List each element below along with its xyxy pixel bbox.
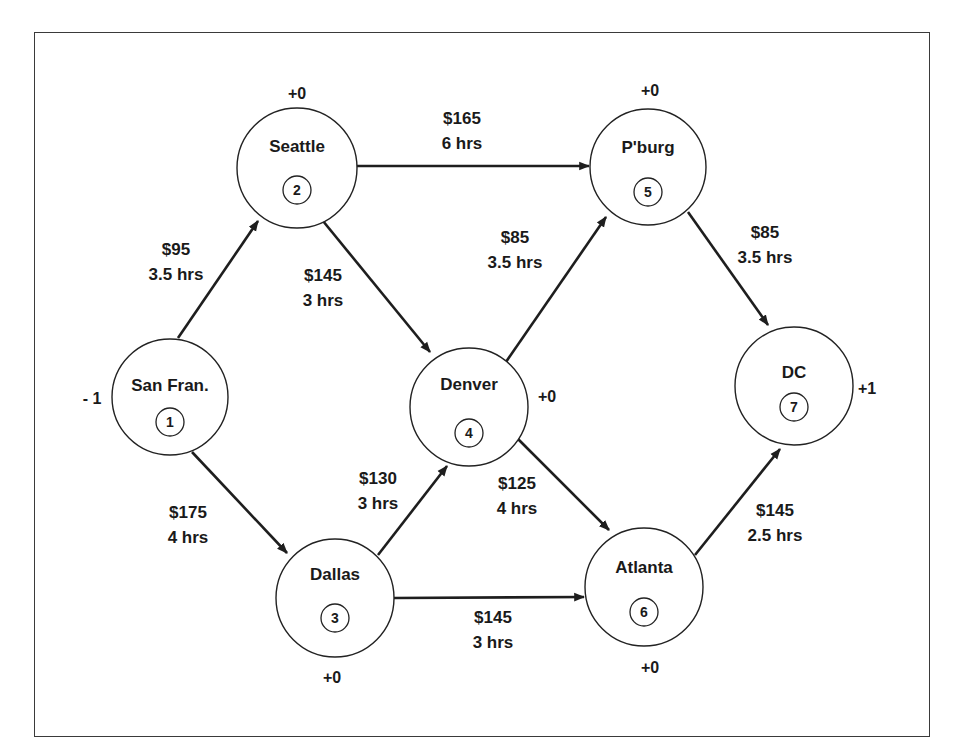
node-seattle: Seattle2+0 [237,85,357,228]
node-supply-label: +0 [641,82,659,99]
edge-time-label: 3 hrs [473,633,514,652]
node-supply-label: +0 [641,659,659,676]
edge-cost-label: $165 [443,109,481,128]
edge-1-to-2: $953.5 hrs [149,221,258,338]
node-p-burg: P'burg5+0 [590,82,706,225]
node-circle [276,539,394,657]
node-san-fran: San Fran.1- 1 [83,339,228,455]
edge-6-to-7: $1452.5 hrs [695,449,802,555]
node-number-label: 7 [790,399,798,415]
edge-4-to-5: $853.5 hrs [488,217,606,375]
node-denver: Denver4+0 [410,348,556,466]
node-name-label: P'burg [621,138,674,157]
node-circle [735,327,853,445]
edge-time-label: 3 hrs [303,291,344,310]
edge-time-label: 6 hrs [442,134,483,153]
node-circle [590,109,706,225]
edge-cost-label: $125 [498,474,536,493]
node-circle [410,348,528,466]
edge-cost-label: $145 [474,608,512,627]
edge-2-to-5: $1656 hrs [357,109,589,166]
node-number-label: 5 [644,184,652,200]
edge-arrow [323,221,430,352]
node-name-label: Atlanta [615,558,673,577]
node-name-label: Seattle [269,137,325,156]
node-number-label: 1 [166,414,174,430]
node-circle [237,108,357,228]
node-dallas: Dallas3+0 [276,539,394,686]
edge-cost-label: $85 [751,223,779,242]
edge-5-to-7: $853.5 hrs [688,212,792,325]
node-number-label: 3 [331,610,339,626]
node-circle [112,339,228,455]
network-diagram: $953.5 hrs$1754 hrs$1453 hrs$1656 hrs$13… [0,0,957,753]
node-name-label: Denver [440,375,498,394]
node-atlanta: Atlanta6+0 [585,528,703,676]
nodes-layer: San Fran.1- 1Seattle2+0Dallas3+0Denver4+… [83,82,877,686]
node-supply-label: +0 [323,669,341,686]
edge-1-to-3: $1754 hrs [168,452,287,553]
edge-4-to-6: $1254 hrs [497,438,609,530]
edge-time-label: 3.5 hrs [488,253,543,272]
edge-cost-label: $175 [169,503,207,522]
node-number-label: 2 [293,182,301,198]
edge-arrow [394,597,584,598]
edge-cost-label: $145 [756,501,794,520]
edge-time-label: 4 hrs [497,499,538,518]
edge-time-label: 2.5 hrs [748,526,803,545]
edge-3-to-6: $1453 hrs [394,597,584,652]
node-supply-label: +0 [538,388,556,405]
edge-cost-label: $85 [501,228,529,247]
node-number-label: 6 [640,604,648,620]
edge-time-label: 4 hrs [168,528,209,547]
node-number-label: 4 [465,425,473,441]
node-supply-label: - 1 [83,390,102,407]
node-supply-label: +1 [858,380,876,397]
node-name-label: Dallas [310,565,360,584]
edge-time-label: 3.5 hrs [738,248,793,267]
node-name-label: San Fran. [131,376,208,395]
edge-time-label: 3 hrs [358,494,399,513]
edge-cost-label: $145 [304,266,342,285]
edge-time-label: 3.5 hrs [149,265,204,284]
edge-2-to-4: $1453 hrs [303,221,430,352]
edge-cost-label: $95 [162,240,190,259]
edge-3-to-4: $1303 hrs [358,466,447,555]
edge-cost-label: $130 [359,469,397,488]
node-name-label: DC [782,363,807,382]
node-dc: DC7+1 [735,327,876,445]
node-circle [585,528,703,646]
node-supply-label: +0 [288,85,306,102]
